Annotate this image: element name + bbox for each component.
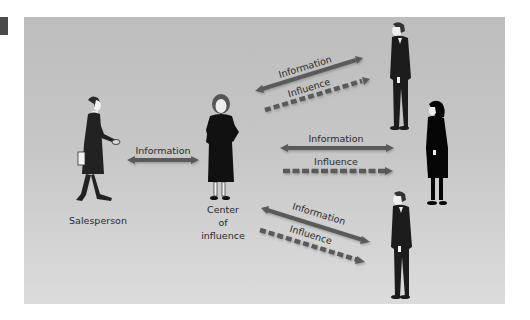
center-to-middle-influence-arrow [283, 167, 393, 175]
middle-information-label: Information [309, 133, 364, 144]
center-label-line1: Center [207, 204, 239, 215]
prospect-top-figure-icon [390, 22, 411, 130]
center-label-line3: influence [201, 230, 245, 241]
prospect-middle-figure-icon [426, 101, 448, 205]
salesperson-figure-icon [76, 96, 120, 201]
salesperson-label: Salesperson [69, 215, 127, 226]
sales-to-center-label: Information [136, 145, 191, 156]
center-to-middle-information-arrow [280, 144, 394, 152]
middle-influence-label: Influence [314, 156, 358, 167]
prospect-bottom-figure-icon [391, 191, 412, 299]
center-label-line2: of [218, 217, 228, 228]
bottom-information-label: Information [291, 200, 347, 227]
sales-to-center-arrow [127, 156, 199, 164]
influence-diagram: Salesperson Information Center of influe… [0, 0, 530, 320]
center-of-influence-figure-icon [206, 94, 239, 200]
